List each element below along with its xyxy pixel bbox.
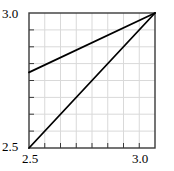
x-axis-max-label: 3.0 xyxy=(132,152,148,165)
y-axis-min-label: 2.5 xyxy=(2,140,18,153)
x-axis-ticks xyxy=(45,143,140,148)
y-axis-max-label: 3.0 xyxy=(2,7,18,20)
y-axis-ticks xyxy=(29,30,34,131)
plot-area xyxy=(0,0,174,171)
chart-container: 3.0 2.5 2.5 3.0 xyxy=(0,0,174,171)
x-axis-min-label: 2.5 xyxy=(22,152,38,165)
